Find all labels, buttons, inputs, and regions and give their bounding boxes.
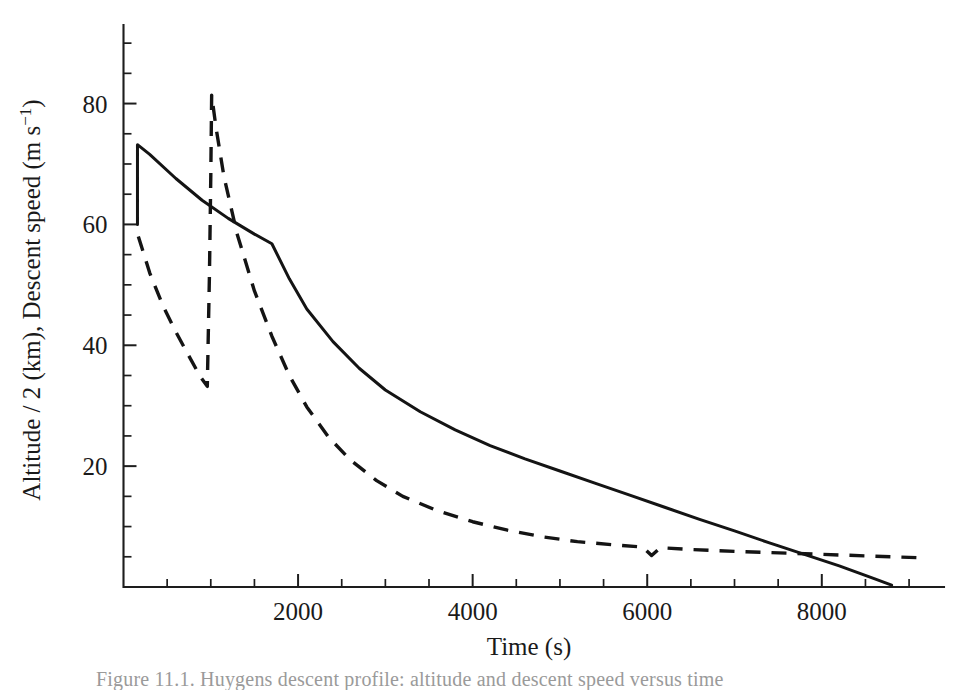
y-tick-label: 40 bbox=[83, 332, 108, 359]
x-tick-label: 8000 bbox=[797, 598, 847, 625]
y-tick-label: 80 bbox=[83, 91, 108, 118]
chart-canvas: 204060802000400060008000 Time (s) Altitu… bbox=[0, 0, 956, 690]
y-tick-label: 20 bbox=[83, 453, 108, 480]
y-tick-label: 60 bbox=[83, 211, 108, 238]
y-axis-title-close: ) bbox=[18, 99, 46, 107]
x-axis-title: Time (s) bbox=[487, 633, 572, 661]
x-tick-label: 6000 bbox=[622, 598, 672, 625]
x-tick-label: 4000 bbox=[448, 598, 498, 625]
figure-caption: Figure 11.1. Huygens descent profile: al… bbox=[96, 668, 724, 690]
figure-caption-band: Figure 11.1. Huygens descent profile: al… bbox=[0, 668, 956, 690]
y-axis-title-main: Altitude / 2 (km), Descent speed (m s bbox=[18, 126, 46, 501]
figure-root: 204060802000400060008000 Time (s) Altitu… bbox=[0, 0, 956, 690]
x-tick-label: 2000 bbox=[273, 598, 323, 625]
y-axis-title: Altitude / 2 (km), Descent speed (m s−1) bbox=[16, 99, 46, 500]
y-axis-title-exponent: −1 bbox=[16, 108, 35, 126]
